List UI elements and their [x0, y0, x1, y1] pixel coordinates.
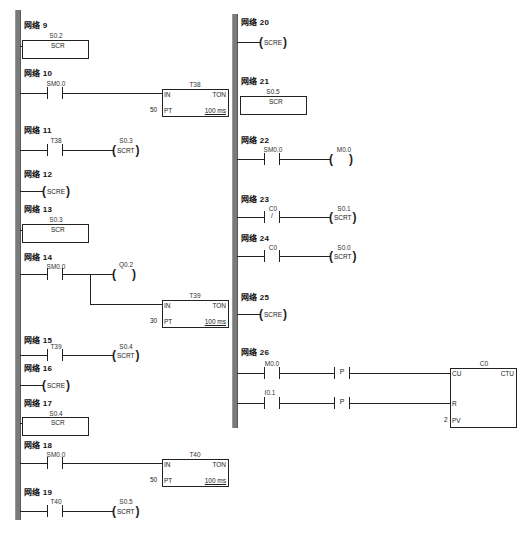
scr-label: SCR	[51, 42, 65, 49]
timer-name: T38	[189, 81, 200, 88]
scrt-coil[interactable]: (SCRT)	[329, 250, 357, 262]
coil-label: SCRT	[333, 214, 353, 221]
coil-right-paren: )	[136, 144, 140, 156]
wire	[280, 159, 330, 160]
no-contact[interactable]	[47, 87, 63, 99]
timer-in-pin: IN	[164, 91, 171, 98]
no-contact[interactable]	[47, 457, 63, 469]
no-contact[interactable]	[264, 250, 280, 262]
positive-edge-contact[interactable]: P	[334, 397, 350, 409]
wire	[63, 93, 163, 94]
timer-name: T40	[189, 451, 200, 458]
wire	[350, 373, 451, 374]
wire	[20, 355, 48, 356]
output-coil[interactable]: ()	[112, 268, 136, 280]
no-contact[interactable]	[47, 268, 63, 280]
scr-label: SCR	[51, 226, 65, 233]
coil-label: SCRT	[116, 508, 136, 515]
contact-operand: SM0.0	[264, 146, 283, 153]
network-25-title: 网络 25	[241, 291, 269, 302]
coil-right-paren: )	[283, 308, 287, 320]
scrt-coil[interactable]: (SCRT)	[112, 505, 140, 517]
no-contact[interactable]	[47, 144, 63, 156]
scr-box[interactable]: SCR	[22, 224, 89, 243]
wire	[20, 230, 23, 231]
scrt-coil[interactable]: (SCRT)	[112, 349, 140, 361]
no-contact[interactable]	[47, 349, 63, 361]
coil-label: SCRE	[263, 39, 283, 46]
timer-name: T39	[189, 292, 200, 299]
coil-right-paren: )	[136, 349, 140, 361]
wire	[20, 423, 23, 424]
ton-timer-box[interactable]: IN TON PT 100 ms	[162, 89, 229, 117]
no-contact[interactable]	[47, 505, 63, 517]
output-coil[interactable]: ()	[329, 153, 353, 165]
no-contact[interactable]	[264, 153, 280, 165]
contact-operand: SM0.0	[47, 80, 66, 87]
wire	[237, 403, 265, 404]
counter-r-pin: R	[452, 400, 457, 407]
wire	[280, 403, 335, 404]
counter-type: CTU	[501, 370, 514, 377]
scre-coil[interactable]: (SCRE)	[42, 185, 70, 197]
network-17-title: 网络 17	[24, 397, 52, 408]
network-9-title: 网络 9	[24, 19, 47, 30]
scre-coil[interactable]: (SCRE)	[42, 379, 70, 391]
coil-right-paren: )	[66, 185, 70, 197]
scr-box[interactable]: SCR	[22, 40, 89, 59]
network-14-title: 网络 14	[24, 251, 52, 262]
network-11-title: 网络 11	[24, 124, 52, 135]
timer-type: TON	[212, 302, 226, 309]
network-24-title: 网络 24	[241, 232, 269, 243]
wire	[237, 373, 265, 374]
scrt-coil[interactable]: (SCRT)	[329, 211, 357, 223]
coil-label: SCRT	[116, 352, 136, 359]
counter-cu-pin: CU	[452, 370, 461, 377]
nc-contact[interactable]: /	[264, 211, 280, 223]
network-12-title: 网络 12	[24, 168, 52, 179]
positive-edge-contact[interactable]: P	[334, 367, 350, 379]
timer-pt-value: 50	[150, 476, 157, 483]
scr-box[interactable]: SCR	[240, 96, 307, 115]
coil-right-paren: )	[283, 36, 287, 48]
scr-operand: S0.2	[49, 32, 62, 39]
wire	[20, 191, 44, 192]
coil-right-paren: )	[349, 153, 353, 165]
coil-label: SCRT	[116, 147, 136, 154]
timer-base: 100 ms	[205, 318, 226, 325]
wire	[63, 511, 113, 512]
ton-timer-box[interactable]: IN TON PT 100 ms	[162, 300, 229, 328]
network-19-title: 网络 19	[24, 486, 52, 497]
wire	[237, 217, 265, 218]
coil-right-paren: )	[353, 250, 357, 262]
coil-label: SCRE	[46, 382, 66, 389]
wire	[63, 150, 113, 151]
no-contact[interactable]	[264, 397, 280, 409]
scre-coil[interactable]: (SCRE)	[259, 308, 287, 320]
coil-label: SCRE	[46, 188, 66, 195]
wire	[90, 304, 163, 305]
wire	[237, 314, 261, 315]
scre-coil[interactable]: (SCRE)	[259, 36, 287, 48]
wire	[63, 355, 113, 356]
contact-operand: T38	[50, 137, 61, 144]
no-contact[interactable]	[264, 367, 280, 379]
wire	[280, 217, 330, 218]
scr-label: SCR	[51, 419, 65, 426]
ctu-counter-box[interactable]: CU CTU R PV	[450, 368, 517, 428]
timer-base: 100 ms	[205, 107, 226, 114]
network-23-title: 网络 23	[241, 193, 269, 204]
wire	[20, 46, 23, 47]
timer-pt-pin: PT	[164, 477, 172, 484]
branch-wire	[90, 274, 91, 304]
wire	[20, 385, 44, 386]
scrt-coil[interactable]: (SCRT)	[112, 144, 140, 156]
network-18-title: 网络 18	[24, 439, 52, 450]
edge-p-label: P	[334, 398, 350, 405]
wire	[20, 274, 48, 275]
ton-timer-box[interactable]: IN TON PT 100 ms	[162, 459, 229, 487]
coil-right-paren: )	[353, 211, 357, 223]
coil-right-paren: )	[132, 268, 136, 280]
scr-box[interactable]: SCR	[22, 417, 89, 436]
wire	[237, 256, 265, 257]
